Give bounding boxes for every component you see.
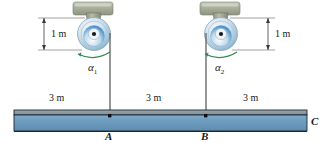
label-left-1m: 1 m [51, 29, 66, 39]
rotation-arrow-left [78, 52, 110, 58]
pulley-hub-right [219, 32, 223, 36]
pulley-hub-left [92, 32, 96, 36]
point-c-label: C [311, 116, 318, 127]
label-alpha-2: α2 [215, 62, 224, 76]
pulley-assembly-left [73, 2, 113, 116]
rotation-arrow-right [205, 52, 237, 58]
beam [14, 110, 307, 132]
pulley-assembly-right [200, 2, 240, 116]
figure-canvas [0, 0, 325, 143]
label-span-middle: 3 m [146, 93, 161, 103]
marker-point-b [204, 114, 207, 117]
label-span-left: 3 m [49, 93, 64, 103]
pulley-wheel-right [205, 18, 238, 51]
marker-point-a [108, 114, 111, 117]
pulley-wheel-left [78, 18, 111, 51]
label-alpha-1: α1 [88, 62, 97, 76]
label-right-1m: 1 m [275, 29, 290, 39]
label-span-right: 3 m [243, 93, 258, 103]
point-b-label: B [201, 131, 208, 142]
mechanics-figure: 1 m 1 m α1 α2 3 m 3 m 3 m A B C [0, 0, 325, 143]
point-a-label: A [105, 131, 112, 142]
